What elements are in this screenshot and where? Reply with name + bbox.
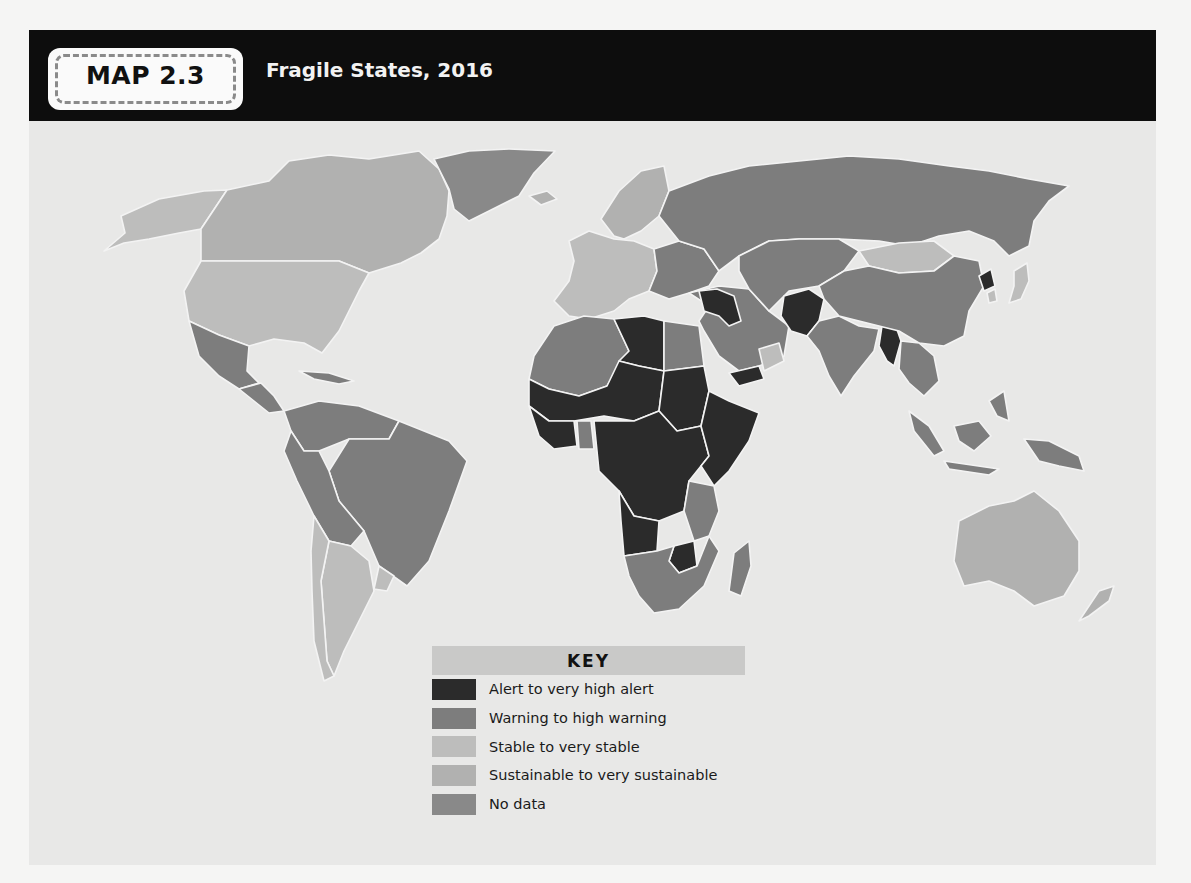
- region-southeast-asia: [899, 341, 939, 396]
- key-label-no-data: No data: [489, 796, 546, 812]
- region-canada: [201, 151, 449, 273]
- key-label-stable: Stable to very stable: [489, 739, 640, 755]
- key-label-alert: Alert to very high alert: [489, 681, 654, 697]
- map-key: KEY Alert to very high alert Warning to …: [432, 646, 752, 818]
- map-number: MAP 2.3: [48, 61, 243, 90]
- region-australia: [954, 491, 1079, 606]
- region-western-europe: [554, 231, 657, 319]
- key-swatch-warning: [432, 708, 476, 729]
- region-scandinavia: [601, 166, 669, 239]
- region-ghana: [577, 421, 594, 449]
- map-number-badge: MAP 2.3: [48, 48, 243, 110]
- region-madagascar: [729, 541, 751, 596]
- region-central-america: [239, 383, 284, 413]
- key-title: KEY: [432, 646, 745, 675]
- region-oman: [759, 343, 784, 371]
- key-item-warning: Warning to high warning: [432, 704, 752, 733]
- region-greenland: [434, 149, 555, 221]
- key-swatch-stable: [432, 736, 476, 757]
- key-item-no-data: No data: [432, 790, 752, 819]
- region-horn-of-africa: [701, 391, 759, 486]
- key-swatch-alert: [432, 679, 476, 700]
- map-title: Fragile States, 2016: [266, 58, 493, 82]
- region-iceland: [529, 191, 557, 205]
- region-india: [807, 316, 879, 396]
- key-item-sustainable: Sustainable to very sustainable: [432, 761, 752, 790]
- region-indonesia: [909, 391, 1009, 475]
- map-figure: MAP 2.3 Fragile States, 2016: [29, 30, 1156, 865]
- region-argentina: [321, 541, 374, 676]
- key-swatch-no-data: [432, 794, 476, 815]
- region-papua-new-guinea: [1024, 439, 1084, 471]
- title-bar: MAP 2.3 Fragile States, 2016: [29, 30, 1156, 121]
- region-yemen: [729, 366, 764, 386]
- key-label-warning: Warning to high warning: [489, 710, 667, 726]
- key-swatch-sustainable: [432, 765, 476, 786]
- key-item-alert: Alert to very high alert: [432, 675, 752, 704]
- region-caribbean: [299, 371, 354, 384]
- region-new-zealand: [1079, 586, 1114, 621]
- key-label-sustainable: Sustainable to very sustainable: [489, 767, 717, 783]
- region-egypt: [664, 321, 704, 371]
- key-item-stable: Stable to very stable: [432, 732, 752, 761]
- region-east-africa: [684, 481, 719, 541]
